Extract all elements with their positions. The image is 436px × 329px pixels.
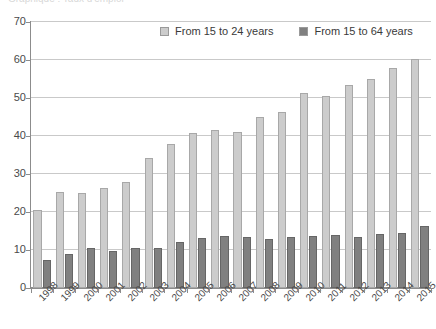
bar-group xyxy=(364,22,386,288)
y-tick-mark-30 xyxy=(26,174,31,175)
bar xyxy=(322,96,330,288)
bar xyxy=(122,182,130,288)
x-tick-mark-2003 xyxy=(142,288,143,293)
bar xyxy=(398,233,406,288)
y-tick-mark-20 xyxy=(26,212,31,213)
bar xyxy=(287,237,295,288)
y-tick-mark-60 xyxy=(26,60,31,61)
bar xyxy=(331,235,339,288)
x-tick-mark-2010 xyxy=(298,288,299,293)
y-tick-mark-10 xyxy=(26,250,31,251)
bar xyxy=(78,193,86,288)
bar xyxy=(198,238,206,288)
y-tick-label-50: 50 xyxy=(4,92,26,103)
bar xyxy=(145,158,153,288)
chart-legend: From 15 to 24 yearsFrom 15 to 64 years xyxy=(160,25,413,37)
x-tick-mark-1998 xyxy=(31,288,32,293)
y-tick-label-30: 30 xyxy=(4,168,26,179)
y-tick-label-70: 70 xyxy=(4,16,26,27)
x-tick-mark-end xyxy=(431,288,432,293)
y-tick-mark-70 xyxy=(26,22,31,23)
bar-group xyxy=(320,22,342,288)
x-tick-mark-2001 xyxy=(98,288,99,293)
bar xyxy=(167,144,175,288)
x-tick-mark-2006 xyxy=(209,288,210,293)
bar-group xyxy=(98,22,120,288)
bars-layer xyxy=(31,22,431,288)
bar xyxy=(411,59,419,288)
x-tick-mark-2013 xyxy=(364,288,365,293)
bar-group xyxy=(253,22,275,288)
x-tick-mark-2002 xyxy=(120,288,121,293)
x-tick-mark-2015 xyxy=(409,288,410,293)
bar-group xyxy=(142,22,164,288)
bar xyxy=(309,236,317,288)
bar-group xyxy=(387,22,409,288)
bar xyxy=(367,79,375,288)
x-tick-mark-2005 xyxy=(187,288,188,293)
bar-group xyxy=(209,22,231,288)
legend-entry[interactable]: From 15 to 64 years xyxy=(299,25,412,37)
x-tick-mark-2009 xyxy=(275,288,276,293)
legend-label: From 15 to 64 years xyxy=(314,25,412,37)
bar xyxy=(33,210,41,288)
bar-group xyxy=(409,22,431,288)
x-tick-mark-2012 xyxy=(342,288,343,293)
bar xyxy=(189,133,197,288)
x-tick-mark-1999 xyxy=(53,288,54,293)
bar xyxy=(100,188,108,288)
bar-group xyxy=(120,22,142,288)
x-tick-mark-2000 xyxy=(75,288,76,293)
y-axis-labels: 010203040506070 xyxy=(0,0,26,329)
y-tick-label-60: 60 xyxy=(4,54,26,65)
y-tick-label-10: 10 xyxy=(4,244,26,255)
bar-group xyxy=(275,22,297,288)
x-tick-mark-2004 xyxy=(164,288,165,293)
y-tick-mark-50 xyxy=(26,98,31,99)
bar xyxy=(300,93,308,288)
bar-group xyxy=(75,22,97,288)
x-tick-mark-2007 xyxy=(231,288,232,293)
bar xyxy=(211,130,219,288)
legend-swatch-icon xyxy=(160,27,169,36)
bar-group xyxy=(31,22,53,288)
legend-entry[interactable]: From 15 to 24 years xyxy=(160,25,273,37)
bar xyxy=(389,68,397,288)
bar xyxy=(278,112,286,288)
bar-group xyxy=(342,22,364,288)
bar xyxy=(420,226,428,288)
x-tick-mark-2011 xyxy=(320,288,321,293)
y-tick-label-20: 20 xyxy=(4,206,26,217)
bar xyxy=(256,117,264,288)
legend-swatch-icon xyxy=(299,27,308,36)
bar xyxy=(233,132,241,288)
bar-chart: Graphique : Taux d'emploi 01020304050607… xyxy=(0,0,436,329)
bar-group xyxy=(164,22,186,288)
x-tick-mark-2008 xyxy=(253,288,254,293)
bar-group xyxy=(187,22,209,288)
y-tick-label-40: 40 xyxy=(4,130,26,141)
bar xyxy=(220,236,228,288)
bar-group xyxy=(231,22,253,288)
y-tick-label-0: 0 xyxy=(4,282,26,293)
bar xyxy=(345,85,353,288)
bar-group xyxy=(298,22,320,288)
bar-group xyxy=(53,22,75,288)
legend-label: From 15 to 24 years xyxy=(175,25,273,37)
x-tick-mark-2014 xyxy=(387,288,388,293)
bar xyxy=(56,192,64,288)
y-tick-mark-40 xyxy=(26,136,31,137)
